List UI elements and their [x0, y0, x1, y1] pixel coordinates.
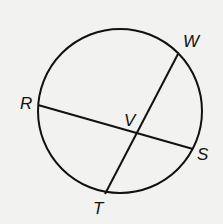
label-w: W [183, 32, 201, 51]
chord-rs [38, 105, 193, 149]
label-s: S [197, 145, 209, 164]
diagram-canvas: W R V S T [0, 0, 223, 224]
label-r: R [20, 94, 32, 113]
label-v: V [124, 111, 137, 130]
chord-wt [105, 54, 178, 194]
circle-chords-diagram: W R V S T [0, 0, 223, 224]
label-t: T [93, 199, 105, 218]
